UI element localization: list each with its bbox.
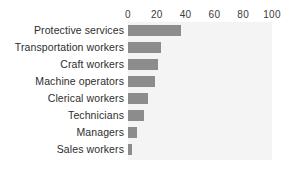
bar (128, 144, 132, 155)
category-label: Technicians (0, 110, 124, 121)
bar (128, 110, 144, 121)
bar (128, 59, 158, 70)
x-axis-tick-labels: 020406080100 (0, 8, 295, 22)
category-label: Managers (0, 127, 124, 138)
bar-chart: 020406080100 Protective servicesTranspor… (0, 0, 295, 195)
x-tick-label: 0 (125, 8, 131, 21)
x-tick-label: 80 (237, 8, 249, 21)
x-tick-label: 100 (263, 8, 281, 21)
category-label: Transportation workers (0, 42, 124, 53)
category-label: Clerical workers (0, 93, 124, 104)
bar (128, 25, 181, 36)
category-label: Craft workers (0, 59, 124, 70)
bars-layer (128, 22, 295, 160)
x-tick-label: 20 (151, 8, 163, 21)
x-tick-label: 40 (180, 8, 192, 21)
category-label: Protective services (0, 25, 124, 36)
x-tick-label: 60 (209, 8, 221, 21)
bar (128, 42, 161, 53)
bar (128, 127, 137, 138)
y-axis-category-labels: Protective servicesTransportation worker… (0, 22, 124, 160)
bar (128, 76, 155, 87)
bar (128, 93, 148, 104)
category-label: Sales workers (0, 144, 124, 155)
category-label: Machine operators (0, 76, 124, 87)
